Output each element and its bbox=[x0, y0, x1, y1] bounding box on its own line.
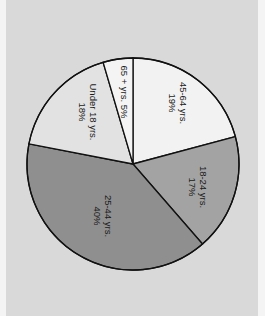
label-18-24-pct: 17% bbox=[187, 177, 198, 197]
label-45-64-name: 45-64 yrs. bbox=[178, 82, 189, 124]
label-25-44-name: 25-44 yrs. bbox=[103, 195, 114, 237]
label-under-18-name: Under 18 yrs. bbox=[88, 83, 99, 140]
label-25-44-pct: 40% bbox=[92, 206, 103, 226]
label-under-18-pct: 18% bbox=[77, 102, 88, 122]
label-65-plus: 65 + yrs. 5% bbox=[119, 65, 130, 119]
label-45-64-pct: 19% bbox=[167, 93, 178, 113]
pie-chart: 45-64 yrs. 19% 18-24 yrs. 17% 25-44 yrs.… bbox=[0, 0, 265, 316]
label-18-24-name: 18-24 yrs. bbox=[198, 166, 209, 208]
